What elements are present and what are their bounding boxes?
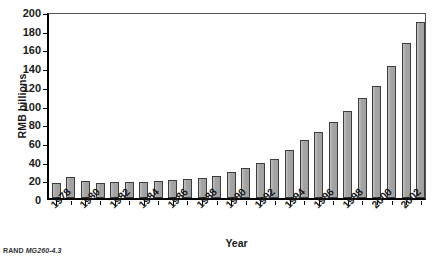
bar [343, 111, 352, 198]
bar [402, 43, 411, 198]
source-caption: RAND MG260-4.3 [3, 247, 62, 254]
bar [387, 66, 396, 198]
caption-figure-id: MG260-4.3 [26, 247, 62, 254]
y-tick-label: 0 [1, 195, 41, 206]
y-tick-label: 100 [1, 102, 41, 113]
y-tick-label: 140 [1, 64, 41, 75]
bar [416, 22, 425, 198]
bar [314, 132, 323, 198]
y-tick-label: 80 [1, 120, 41, 131]
bar [372, 86, 381, 198]
bar-series [49, 14, 425, 198]
bar [329, 122, 338, 198]
caption-source: RAND [3, 247, 24, 254]
x-axis-tick-labels: 1978198019821984198619881990199219941996… [47, 202, 426, 236]
y-tick-label: 120 [1, 83, 41, 94]
y-tick-label: 60 [1, 139, 41, 150]
y-tick-label: 200 [1, 8, 41, 19]
y-tick-label: 160 [1, 45, 41, 56]
bar [358, 98, 367, 198]
plot-area: 020406080100120140160180200 [47, 13, 426, 200]
y-tick-label: 20 [1, 176, 41, 187]
chart-figure: RMB billions 020406080100120140160180200… [0, 0, 437, 263]
y-tick-label: 40 [1, 158, 41, 169]
y-tick-label: 180 [1, 27, 41, 38]
x-axis-title: Year [47, 237, 426, 249]
